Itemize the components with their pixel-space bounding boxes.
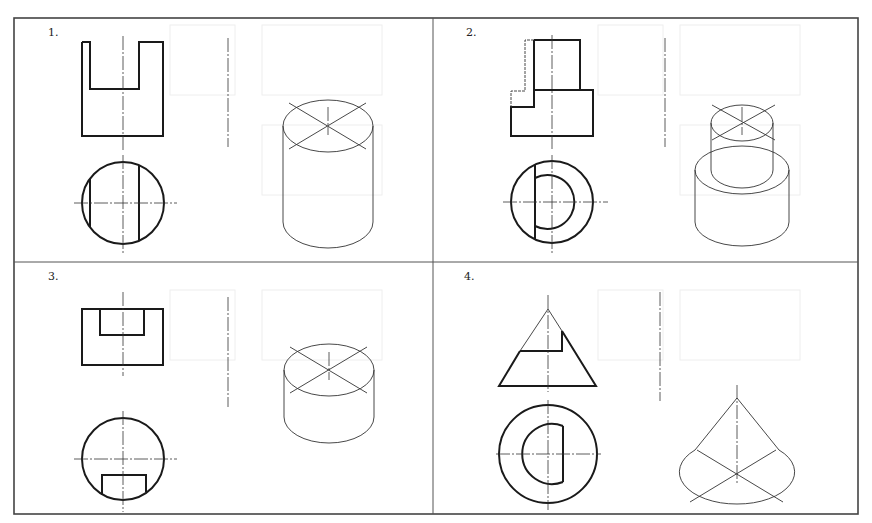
panel-4-front-view (499, 295, 596, 392)
panel-1-number: 1. (48, 26, 59, 39)
panel-1-front-view (82, 36, 163, 150)
panel-2 (503, 35, 789, 253)
panel-1-top-view (74, 155, 177, 255)
ghost-guidelines (170, 25, 800, 360)
panel-4 (496, 292, 795, 510)
panel-1 (74, 36, 373, 255)
panel-3-top-view (74, 411, 177, 512)
panel-4-isometric-cone (679, 385, 794, 504)
panel-3-front-view (82, 292, 163, 376)
exercise-sheet (0, 0, 872, 523)
panel-3-number: 3. (48, 270, 59, 283)
panel-1-isometric-cylinder (283, 100, 373, 248)
panel-2-number: 2. (466, 26, 477, 39)
panel-3 (74, 292, 374, 512)
sheet-border (14, 18, 858, 514)
panel-4-number: 4. (464, 270, 475, 283)
panel-2-top-view (503, 155, 608, 253)
panel-2-isometric-stepped-cylinder (695, 105, 789, 246)
panel-3-isometric-cylinder (284, 344, 374, 443)
panel-2-front-view (511, 35, 593, 150)
panel-4-top-view (496, 400, 601, 510)
